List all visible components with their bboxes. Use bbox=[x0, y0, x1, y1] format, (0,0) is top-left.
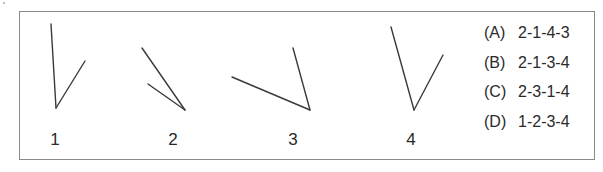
option-letter: (C) bbox=[484, 82, 518, 102]
figure-1-ray-1 bbox=[51, 24, 56, 108]
figure-1-label: 1 bbox=[45, 131, 65, 149]
figure-3-ray-2 bbox=[293, 48, 310, 110]
figure-4-ray-1 bbox=[391, 27, 414, 110]
answer-options: (A)2-1-4-3 (B)2-1-3-4 (C)2-3-1-4 (D)1-2-… bbox=[484, 23, 570, 141]
option-c[interactable]: (C)2-3-1-4 bbox=[484, 82, 570, 112]
figure-4-angle bbox=[391, 27, 443, 110]
figure-1-angle bbox=[51, 24, 85, 108]
figure-2-ray-1 bbox=[142, 48, 185, 110]
option-answer: 2-1-4-3 bbox=[518, 24, 570, 41]
option-letter: (D) bbox=[484, 112, 518, 132]
option-answer: 2-3-1-4 bbox=[518, 83, 570, 100]
option-d[interactable]: (D)1-2-3-4 bbox=[484, 112, 570, 142]
figure-4-ray-2 bbox=[414, 55, 443, 110]
option-answer: 1-2-3-4 bbox=[518, 113, 570, 130]
figure-4-label: 4 bbox=[401, 131, 421, 149]
option-a[interactable]: (A)2-1-4-3 bbox=[484, 23, 570, 53]
figure-3-ray-1 bbox=[232, 77, 310, 110]
figure-1-ray-2 bbox=[56, 61, 85, 108]
figure-2-angle bbox=[142, 48, 185, 110]
option-letter: (A) bbox=[484, 23, 518, 43]
figure-2-label: 2 bbox=[163, 131, 183, 149]
figure-3-label: 3 bbox=[283, 131, 303, 149]
figure-3-angle bbox=[232, 48, 310, 110]
option-letter: (B) bbox=[484, 53, 518, 73]
option-b[interactable]: (B)2-1-3-4 bbox=[484, 53, 570, 83]
option-answer: 2-1-3-4 bbox=[518, 54, 570, 71]
figure-2-ray-2 bbox=[148, 84, 185, 110]
